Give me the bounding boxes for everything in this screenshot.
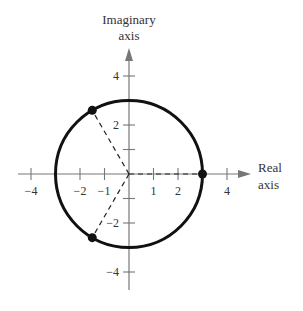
y-tick-label: −4: [106, 265, 119, 279]
imaginary-axis-title-line1: Imaginary: [102, 12, 156, 27]
real-axis-title-line2: axis: [258, 177, 279, 192]
x-tick-label: −1: [98, 184, 111, 198]
real-axis-title-line1: Real: [258, 160, 282, 175]
point-3-0: [198, 170, 207, 179]
complex-plane-diagram: Imaginary axis Real axis −4 −2 −1 1 2 4 …: [0, 0, 303, 311]
point-lower-left: [88, 233, 97, 242]
x-tick-label: −2: [74, 184, 87, 198]
y-tick-label: −2: [106, 216, 119, 230]
x-tick-label: 2: [175, 184, 181, 198]
radius-to-point-1: [92, 110, 129, 174]
point-upper-left: [88, 106, 97, 115]
axes: [18, 48, 251, 290]
x-tick-label: 1: [151, 184, 157, 198]
imaginary-axis-title-line2: axis: [119, 28, 140, 43]
real-axis-arrow-icon: [238, 170, 251, 178]
x-tick-label: −4: [25, 184, 38, 198]
x-tick-label: 4: [224, 184, 230, 198]
y-tick-label: 4: [113, 69, 119, 83]
imaginary-axis-arrow-icon: [125, 48, 133, 61]
y-tick-label: 2: [113, 118, 119, 132]
